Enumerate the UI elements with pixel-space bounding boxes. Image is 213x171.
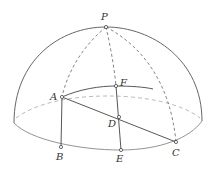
point-B	[59, 145, 62, 148]
point-F	[114, 84, 117, 87]
dome-outline	[14, 27, 202, 123]
arc-AF	[62, 86, 153, 97]
point-A	[60, 95, 63, 98]
meridian-PF	[106, 27, 116, 86]
diagram-canvas: P A B F D E C	[0, 0, 213, 171]
point-P	[104, 25, 107, 28]
label-C: C	[172, 147, 180, 158]
label-E: E	[115, 153, 124, 164]
label-P: P	[100, 11, 108, 22]
label-D: D	[107, 118, 116, 129]
arc-AB	[61, 97, 62, 147]
point-C	[174, 140, 177, 143]
label-F: F	[119, 77, 128, 88]
point-D	[117, 115, 120, 118]
arc-AC	[62, 97, 176, 142]
point-E	[119, 148, 122, 151]
label-A: A	[49, 91, 57, 102]
hemisphere-diagram: P A B F D E C	[0, 0, 213, 171]
label-B: B	[55, 151, 63, 162]
